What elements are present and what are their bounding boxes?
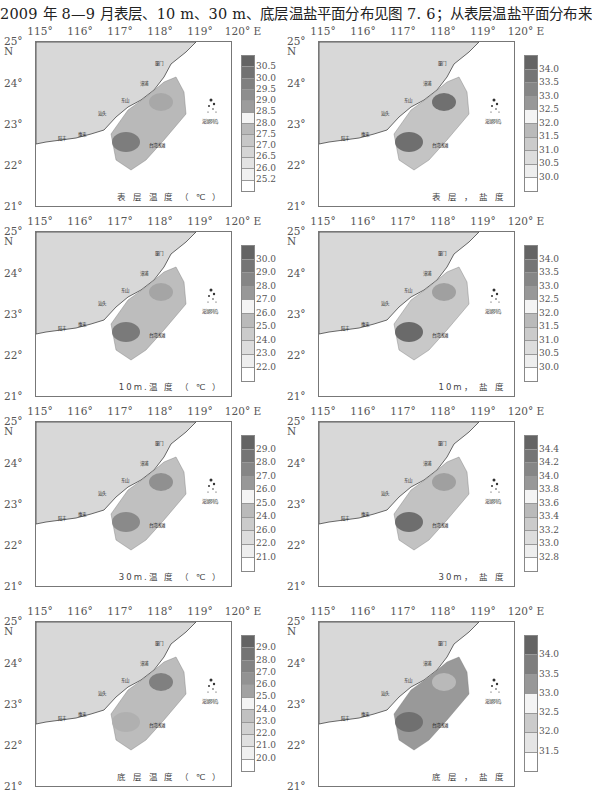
colorbar-segment <box>242 158 254 169</box>
y-tick: 24° <box>287 77 306 89</box>
colorbar-label: 29.0 <box>256 95 276 105</box>
colorbar-label: 25.0 <box>256 691 276 701</box>
penghu-islands-icon <box>207 99 216 113</box>
colorbar <box>524 435 538 572</box>
colorbar-label: 34.0 <box>539 649 559 659</box>
y-tick: 24° <box>287 267 306 279</box>
colorbar-segment <box>242 287 254 301</box>
place-label-xiamen: 厦门 <box>155 250 163 256</box>
map-graphic <box>319 422 514 586</box>
map-frame: 厦门 漳浦 东山 汕头 惠来 陆丰 台湾浅滩 澎湖列岛 底 层 温 度 （ ℃ … <box>35 621 232 787</box>
place-label-zhangpu: 漳浦 <box>423 460 431 466</box>
y-tick: 23° <box>4 118 23 130</box>
y-tick: 23° <box>4 498 23 510</box>
colorbar-segment <box>525 733 537 752</box>
y-tick: 24° <box>4 457 23 469</box>
colorbar-label: 33.0 <box>539 538 559 548</box>
colorbar-label: 30.0 <box>256 254 276 264</box>
colorbar-label: 32.0 <box>539 726 559 736</box>
x-tick: 118° <box>147 405 172 417</box>
colorbar-labels: 34.434.234.033.833.633.433.233.032.8 <box>539 435 569 570</box>
x-tick: 120° E <box>508 215 544 227</box>
colorbar-segment <box>242 723 254 735</box>
place-label-zhangpu: 漳浦 <box>140 80 148 86</box>
colorbar-segment <box>242 636 254 648</box>
x-tick: 118° <box>430 25 455 37</box>
place-label-penghu: 澎湖列岛 <box>202 118 218 124</box>
colorbar-segment <box>242 135 254 146</box>
map-frame: 厦门 漳浦 东山 汕头 惠来 陆丰 台湾浅滩 澎湖列岛 10m， 盐 度 <box>318 231 515 397</box>
colorbar-segment <box>242 341 254 355</box>
x-axis-ticks: 115° 116° 117° 118° 119° 120° E <box>311 605 551 619</box>
map-frame: 厦门 漳浦 东山 汕头 惠来 陆丰 台湾浅滩 澎湖列岛 底 层 ， 盐 度 <box>318 621 515 787</box>
penghu-islands-icon <box>207 479 216 493</box>
colorbar-segment <box>242 181 254 191</box>
colorbar-segment <box>242 124 254 135</box>
contour-high <box>395 712 423 732</box>
x-tick: 117° <box>107 605 132 617</box>
colorbar-label: 32.5 <box>539 707 559 717</box>
y-tick: 21° <box>4 200 23 212</box>
place-label-huilai: 惠来 <box>78 711 86 717</box>
place-label-huilai: 惠来 <box>78 131 86 137</box>
colorbar-label: 33.0 <box>539 281 559 291</box>
colorbar-segment <box>242 79 254 90</box>
colorbar-label: 27.0 <box>256 667 276 677</box>
colorbar-label: 30.5 <box>539 158 559 168</box>
penghu-islands-icon <box>490 289 499 303</box>
contour-mid <box>432 473 456 491</box>
colorbar-segment <box>525 110 537 124</box>
x-tick: 117° <box>390 405 415 417</box>
place-label-taiwan-shoal: 台湾浅滩 <box>149 332 165 338</box>
place-label-penghu: 澎湖列岛 <box>485 118 501 124</box>
colorbar-segment <box>525 714 537 733</box>
colorbar-segment <box>242 450 254 464</box>
contour-high <box>395 512 423 532</box>
map-graphic <box>36 622 231 786</box>
colorbar-segment <box>525 138 537 152</box>
contour-mid <box>432 673 456 691</box>
x-tick: 117° <box>107 215 132 227</box>
place-label-huilai: 惠来 <box>361 321 369 327</box>
x-tick: 120° E <box>225 405 261 417</box>
y-tick: 22° <box>287 739 306 751</box>
colorbar-segment <box>525 151 537 165</box>
map-panel-bottom-temp: 115° 116° 117° 118° 119° 120° E 25° N 24… <box>0 605 283 800</box>
colorbar-label: 20.0 <box>256 753 276 763</box>
colorbar-labels: 30.029.028.027.026.025.024.023.022.0 <box>256 245 286 380</box>
x-axis-ticks: 115° 116° 117° 118° 119° 120° E <box>311 25 551 39</box>
colorbar-label: 32.0 <box>539 118 559 128</box>
x-tick: 117° <box>107 405 132 417</box>
contour-mid <box>149 473 173 491</box>
place-label-shantou: 汕头 <box>381 300 389 306</box>
contour-mid <box>149 93 173 111</box>
y-axis-ticks: 25° N 24° 23° 22° 21° <box>285 25 315 220</box>
y-tick: 22° <box>4 159 23 171</box>
y-tick: 24° <box>287 457 306 469</box>
y-tick: 22° <box>287 159 306 171</box>
x-axis-ticks: 115° 116° 117° 118° 119° 120° E <box>28 605 268 619</box>
colorbar-segment <box>242 368 254 381</box>
colorbar-segment <box>242 169 254 180</box>
colorbar-segment <box>525 490 537 504</box>
place-label-lufeng: 陆丰 <box>341 135 349 141</box>
x-tick: 119° <box>470 215 495 227</box>
colorbar-segment <box>242 504 254 518</box>
y-tick: 24° <box>4 267 23 279</box>
place-label-lufeng: 陆丰 <box>341 715 349 721</box>
colorbar-segment <box>525 260 537 274</box>
place-label-xiamen: 厦门 <box>155 60 163 66</box>
x-axis-ticks: 115° 116° 117° 118° 119° 120° E <box>28 25 268 39</box>
map-panel-10m-salinity: 115° 116° 117° 118° 119° 120° E 25° N 24… <box>283 215 566 410</box>
place-label-huilai: 惠来 <box>361 511 369 517</box>
colorbar-segment <box>525 355 537 369</box>
y-tick: N <box>4 625 13 637</box>
colorbar-label: 30.5 <box>256 61 276 71</box>
y-tick: 23° <box>287 308 306 320</box>
colorbar <box>241 635 255 772</box>
colorbar-labels: 34.033.533.032.532.031.5 <box>539 635 569 770</box>
colorbar-segment <box>242 518 254 532</box>
colorbar-segment <box>242 90 254 101</box>
colorbar-label: 30.5 <box>539 348 559 358</box>
place-label-xiamen: 厦门 <box>155 640 163 646</box>
